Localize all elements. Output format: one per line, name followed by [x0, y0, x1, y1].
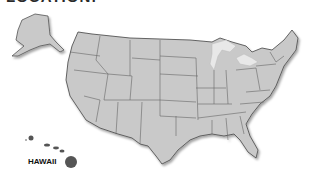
alaska-shape: [12, 14, 64, 56]
hawaii-label: HAWAII: [28, 157, 56, 166]
us-map: [0, 0, 310, 181]
contiguous-us-shape: [66, 30, 298, 164]
